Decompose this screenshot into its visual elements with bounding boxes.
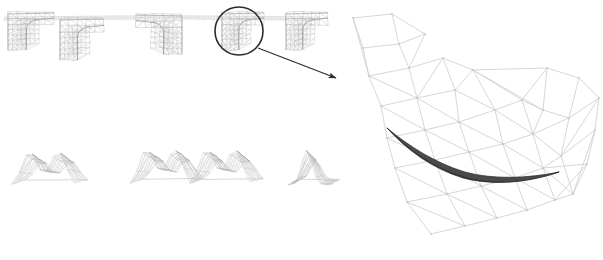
figure-canvas [0,0,603,260]
magnifier-circle[interactable] [215,7,263,55]
magnifier-arrow [258,48,336,78]
magnifier-annotation [0,0,603,260]
